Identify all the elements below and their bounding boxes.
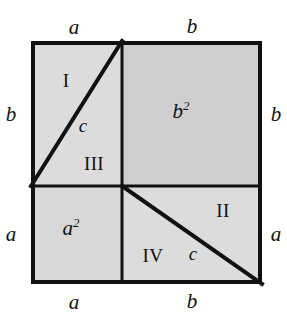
edge-label-right-a: a — [266, 224, 286, 245]
a-squared-exponent: 2 — [73, 215, 80, 230]
region-label-II: II — [210, 201, 236, 220]
diagram-svg — [0, 0, 287, 323]
region-label-III: III — [78, 154, 110, 173]
a-squared-base: a — [62, 216, 73, 240]
region-label-I: I — [56, 71, 76, 90]
area-label-a-squared: a2 — [56, 218, 86, 239]
b-squared-exponent: 2 — [183, 98, 190, 113]
edge-label-right-b: b — [266, 104, 286, 125]
edge-label-bottom-b: b — [182, 291, 202, 312]
edge-label-top-b: b — [182, 16, 202, 37]
hypotenuse-label-upper-c: c — [74, 116, 92, 135]
hypotenuse-label-lower-c: c — [184, 244, 202, 263]
edge-label-bottom-a: a — [64, 292, 84, 313]
diagram-canvas — [0, 0, 287, 323]
region-label-IV: IV — [138, 246, 168, 265]
edge-label-top-a: a — [64, 17, 84, 38]
edge-label-left-b: b — [1, 104, 21, 125]
area-label-b-squared: b2 — [166, 101, 196, 122]
pythagorean-dissection-figure: a b b a b a a b I II III IV c c b2 a2 — [0, 0, 287, 323]
b-squared-base: b — [172, 99, 183, 123]
edge-label-left-a: a — [1, 224, 21, 245]
